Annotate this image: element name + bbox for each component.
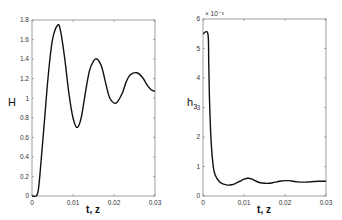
x-tick-label: 0.01: [238, 199, 251, 206]
y-tick-label: 5: [196, 45, 200, 52]
y-tick-label: 1: [25, 95, 29, 102]
x-tick-label: 0: [30, 199, 34, 206]
right-y-label-subscript: 3: [193, 103, 197, 110]
y-tick-label: 0: [25, 192, 29, 199]
x-tick-label: 0: [201, 199, 205, 206]
x-tick-label: 0.02: [279, 199, 292, 206]
y-tick-label: 1.2: [20, 75, 29, 82]
y-tick-label: 0.8: [20, 114, 29, 121]
left-plot: 00.20.40.60.811.21.41.61.8 00.010.020.03…: [8, 16, 162, 215]
y-tick-label: 6: [196, 15, 200, 22]
y-tick-label: 0.4: [20, 153, 29, 160]
left-x-ticks: 00.010.020.03: [30, 20, 162, 206]
right-plot-frame: [203, 19, 326, 196]
figure: 00.20.40.60.811.21.41.61.8 00.010.020.03…: [0, 0, 342, 220]
y-tick-label: 0.6: [20, 134, 29, 141]
y-tick-label: 1.6: [20, 36, 29, 43]
y-tick-label: 4: [196, 74, 200, 81]
y-tick-label: 0.2: [20, 173, 29, 180]
y-tick-label: 0: [196, 192, 200, 199]
right-y-multiplier: × 10⁻³: [205, 10, 225, 17]
right-y-ticks: 0123456: [196, 15, 326, 199]
right-x-ticks: 00.010.020.03: [201, 19, 333, 206]
x-tick-label: 0.01: [67, 199, 80, 206]
x-tick-label: 0.03: [320, 199, 333, 206]
left-x-axis-label: t, z: [86, 204, 100, 215]
y-tick-label: 1.8: [20, 16, 29, 23]
y-tick-label: 1.4: [20, 55, 29, 62]
right-plot: 0123456 00.010.020.03 h3 × 10⁻³ t, z: [187, 10, 333, 215]
h-curve: [32, 25, 155, 197]
x-tick-label: 0.03: [149, 199, 162, 206]
right-y-axis-label: h3: [187, 96, 197, 110]
left-plot-frame: [32, 20, 155, 196]
right-x-axis-label: t, z: [257, 204, 271, 215]
h3-curve: [203, 32, 326, 186]
y-tick-label: 2: [196, 133, 200, 140]
y-tick-label: 1: [196, 163, 200, 170]
x-tick-label: 0.02: [108, 199, 121, 206]
left-y-axis-label: H: [8, 96, 16, 108]
